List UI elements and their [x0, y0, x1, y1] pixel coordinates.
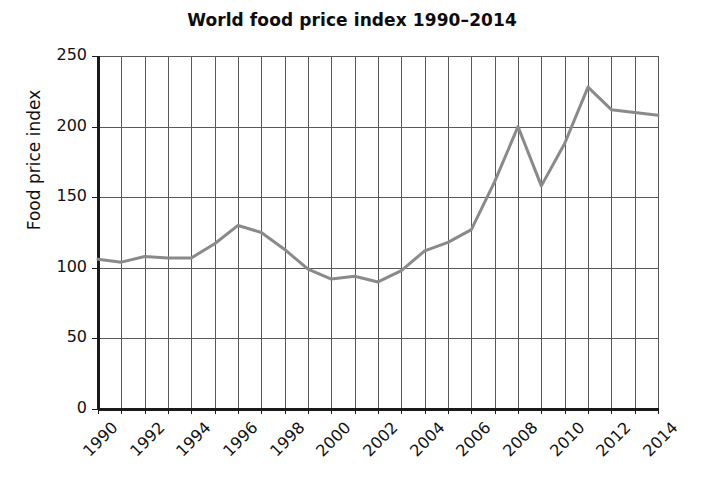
plot-area: [0, 0, 704, 477]
y-tick-label: 100: [31, 257, 87, 276]
axis-ticks: [92, 57, 659, 415]
y-tick-label: 200: [31, 116, 87, 135]
y-tick-label: 0: [31, 398, 87, 417]
y-tick-label: 50: [31, 327, 87, 346]
y-tick-label: 150: [31, 186, 87, 205]
chart-container: World food price index 1990–2014 Food pr…: [0, 0, 704, 477]
y-tick-label: 250: [31, 45, 87, 64]
gridlines: [98, 56, 658, 409]
